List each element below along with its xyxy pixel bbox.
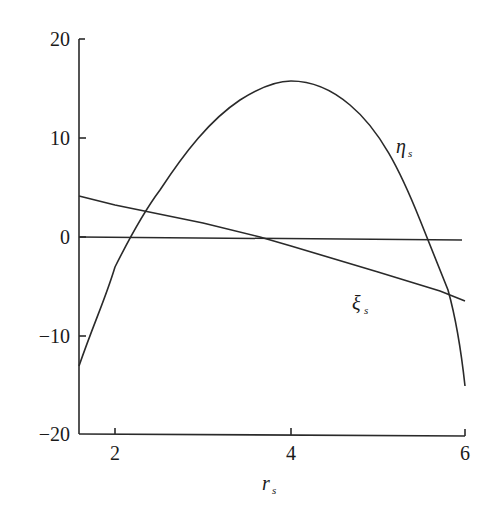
svg-text:η: η [396, 135, 406, 158]
svg-text:r: r [262, 472, 270, 494]
y-tick-0: 0 [60, 226, 70, 248]
eta-label: η s [396, 135, 412, 159]
svg-text:s: s [364, 304, 368, 316]
y-tick-minus-10: −10 [39, 325, 70, 347]
svg-text:s: s [272, 484, 276, 496]
y-tick-20: 20 [50, 28, 70, 50]
x-tick-2: 2 [110, 442, 120, 464]
x-axis [79, 434, 465, 436]
chart: 20 10 0 −10 −20 2 4 6 r s η s ξ s [0, 0, 496, 523]
x-tick-4: 4 [286, 442, 296, 464]
svg-text:s: s [408, 147, 412, 159]
xi-label: ξ s [352, 292, 368, 316]
eta-series-curve [79, 81, 465, 386]
x-tick-6: 6 [460, 442, 470, 464]
svg-text:ξ: ξ [352, 292, 361, 314]
y-tick-10: 10 [50, 127, 70, 149]
y-tick-minus-20: −20 [39, 423, 70, 445]
xi-series-line [79, 196, 465, 301]
x-axis-label: r s [262, 472, 276, 496]
